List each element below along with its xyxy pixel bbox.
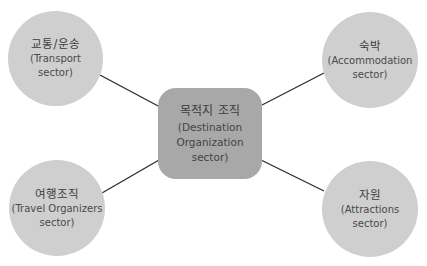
diagram-canvas: 교통/운송 (Transport sector) 숙박 (Accommodati… — [0, 0, 427, 266]
node-accommodation: 숙박 (Accommodation sector) — [322, 12, 418, 108]
node-accommodation-line-1: (Accommodation — [328, 54, 413, 68]
center-line-3: sector) — [192, 150, 229, 165]
node-transport-line-1: (Transport — [30, 52, 81, 66]
node-destination-organization: 목적지 조직 (Destination Organization sector) — [158, 88, 262, 179]
connector-accommodation — [262, 73, 324, 105]
node-accommodation-line-2: sector) — [353, 68, 388, 82]
connector-transport — [100, 75, 160, 107]
connector-attractions — [261, 160, 324, 191]
center-line-2: Organization — [176, 135, 243, 150]
node-travel-organizers-line-2: sector) — [40, 216, 75, 230]
node-transport: 교통/운송 (Transport sector) — [8, 11, 103, 106]
node-transport-title: 교통/운송 — [31, 37, 80, 52]
node-travel-organizers-title: 여행조직 — [35, 187, 80, 202]
node-attractions-line-2: sector) — [353, 217, 388, 231]
node-travel-organizers: 여행조직 (Travel Organizers sector) — [9, 160, 105, 256]
node-transport-line-2: sector) — [38, 66, 73, 80]
center-title: 목적지 조직 — [180, 103, 240, 120]
connector-travel-organizers — [102, 160, 159, 193]
node-attractions: 자원 (Attractions sector) — [322, 161, 418, 257]
center-line-1: (Destination — [178, 120, 242, 135]
node-attractions-line-1: (Attractions — [341, 203, 400, 217]
node-attractions-title: 자원 — [359, 188, 381, 203]
node-accommodation-title: 숙박 — [359, 39, 381, 54]
node-travel-organizers-line-1: (Travel Organizers — [12, 202, 103, 216]
